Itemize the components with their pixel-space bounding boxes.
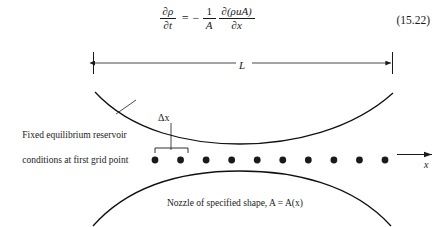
equation-lhs-denominator: ∂t: [161, 19, 176, 32]
reservoir-note-leader: [116, 100, 136, 114]
equation-factor-fraction: 1 A: [203, 5, 216, 32]
reservoir-note-line-2: conditions at first grid point: [22, 155, 128, 165]
grid-point: [254, 157, 261, 164]
grid-point: [382, 157, 389, 164]
length-dimension-label: L: [236, 58, 248, 73]
nozzle-caption: Nozzle of specified shape, A = A(x): [167, 197, 303, 210]
equation-lhs-fraction: ∂ρ ∂t: [160, 5, 177, 32]
equation-lhs-numerator: ∂ρ: [160, 5, 177, 18]
figure-page: ∂ρ ∂t = − 1 A ∂(ρuA) ∂x (15.22): [0, 0, 444, 227]
grid-point-row: [152, 157, 389, 164]
grid-point: [152, 157, 159, 164]
equation-rhs-numerator: ∂(ρuA): [219, 5, 255, 18]
equation-block: ∂ρ ∂t = − 1 A ∂(ρuA) ∂x (15.22): [0, 2, 444, 40]
nozzle-figure: L Δx Fixed equilibrium reservoir conditi…: [0, 40, 444, 227]
equation-factor-denominator: A: [203, 19, 216, 32]
x-axis-label: x: [424, 158, 428, 171]
reservoir-note-line-1: Fixed equilibrium reservoir: [22, 130, 126, 140]
equation-factor-numerator: 1: [203, 5, 215, 18]
grid-point: [356, 157, 363, 164]
equation-number: (15.22): [396, 14, 430, 26]
grid-point: [177, 157, 184, 164]
equation-rhs-fraction: ∂(ρuA) ∂x: [219, 5, 255, 32]
grid-point: [279, 157, 286, 164]
equation-rhs-denominator: ∂x: [228, 19, 244, 32]
delta-x-label: Δx: [158, 111, 169, 124]
grid-point: [203, 157, 210, 164]
equals-sign: =: [182, 12, 189, 24]
minus-sign: −: [193, 12, 200, 24]
grid-point: [305, 157, 312, 164]
governing-equation: ∂ρ ∂t = − 1 A ∂(ρuA) ∂x: [158, 5, 256, 32]
reservoir-condition-note: Fixed equilibrium reservoir conditions a…: [8, 116, 128, 179]
grid-point: [330, 157, 337, 164]
delta-x-bracket: [155, 148, 188, 153]
nozzle-upper-wall: [95, 92, 393, 144]
grid-point: [228, 157, 235, 164]
